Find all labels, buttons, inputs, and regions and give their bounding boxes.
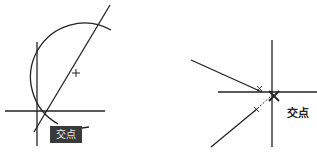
lower-ray — [211, 109, 257, 147]
circle-arc — [31, 23, 111, 124]
center-cross-icon — [72, 69, 80, 77]
tooltip-tail — [82, 127, 89, 128]
intersection-tooltip: 交点 — [50, 126, 82, 143]
intersection-label: 交点 — [287, 104, 309, 120]
upper-ray — [191, 60, 262, 92]
dashed-extension — [257, 95, 272, 109]
small-cross-marker-icon — [254, 86, 262, 112]
left-diagram — [5, 5, 111, 146]
diagram-canvas — [0, 0, 317, 162]
right-diagram — [191, 40, 317, 147]
